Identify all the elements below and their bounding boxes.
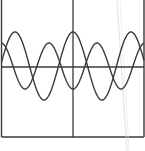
artifact-line-2 [120, 0, 129, 151]
waveform-diagram [0, 0, 145, 151]
artifact-line [117, 0, 127, 151]
